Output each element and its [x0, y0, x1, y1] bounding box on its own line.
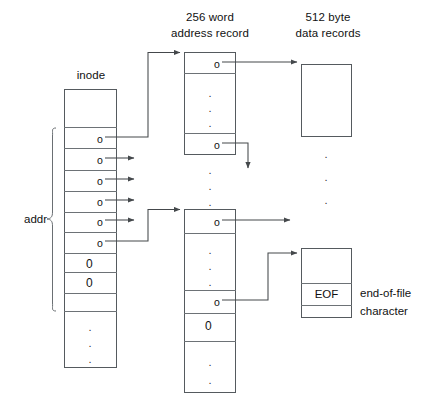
address-record-1-pointer: o — [214, 59, 220, 70]
inode-cell-pointer: o — [97, 238, 103, 249]
inode-ellipsis-dot: . — [84, 338, 96, 349]
address-record-1-divider — [184, 133, 236, 134]
data-record-eof-divider — [301, 305, 352, 306]
heading-inode: inode — [64, 68, 118, 84]
inode-divider — [64, 212, 117, 213]
inode-cell-pointer: o — [97, 134, 103, 145]
heading-data-records-line2: data records — [272, 26, 384, 42]
inode-cell-pointer: o — [97, 155, 103, 166]
inode-cell-null: 0 — [86, 277, 93, 289]
data-record-eof-divider — [301, 283, 352, 284]
inode-cell-pointer: o — [97, 197, 103, 208]
diagram-canvas: inode 256 word address record 512 byte d… — [0, 0, 430, 408]
address-record-1-ellipsis-dot: . — [204, 88, 216, 99]
address-record-2-divider — [184, 341, 236, 342]
data-record-gap-dot: . — [320, 172, 332, 183]
address-record-2-ellipsis-dot: . — [204, 277, 216, 288]
address-record-gap-dot: . — [204, 165, 216, 176]
inode-divider — [64, 191, 117, 192]
inode-divider — [64, 311, 117, 312]
address-record-2-divider — [184, 233, 236, 234]
addr-brace-label: addr — [24, 213, 47, 225]
data-record-gap-dot: . — [320, 149, 332, 160]
inode-cell-pointer: o — [97, 176, 103, 187]
data-record-gap-dot: . — [320, 195, 332, 206]
inode-divider — [64, 232, 117, 233]
inode-divider — [64, 127, 117, 128]
eof-note-line2: character — [360, 306, 408, 318]
address-record-2-divider — [184, 313, 236, 314]
inode-divider — [64, 253, 117, 254]
address-record-gap-dot: . — [204, 197, 216, 208]
address-record-1-ellipsis-dot: . — [204, 103, 216, 114]
address-record-gap-dot: . — [204, 181, 216, 192]
inode-divider — [64, 148, 117, 149]
address-record-2-ellipsis-dot: . — [204, 245, 216, 256]
inode-divider — [64, 272, 117, 273]
addr-brace — [47, 128, 56, 311]
inode-cell-pointer: o — [97, 217, 103, 228]
address-record-2-divider — [184, 290, 236, 291]
address-record-2-ellipsis-dot: . — [204, 261, 216, 272]
address-record-2-pointer: o — [214, 217, 220, 228]
inode-ellipsis-dot: . — [84, 354, 96, 365]
address-record-2-pointer: o — [214, 297, 220, 308]
address-record-2-ellipsis-dot: . — [204, 357, 216, 368]
address-record-2-null: 0 — [205, 320, 212, 332]
address-record-1-divider — [184, 73, 236, 74]
inode-ellipsis-dot: . — [84, 322, 96, 333]
address-record-1-ellipsis-dot: . — [204, 118, 216, 129]
address-record-2-ellipsis-dot: . — [204, 375, 216, 386]
inode-divider — [64, 170, 117, 171]
eof-note-line1: end-of-file — [360, 288, 411, 300]
heading-address-record-line1: 256 word — [160, 10, 260, 26]
eof-cell-label: EOF — [301, 289, 352, 301]
inode-divider — [64, 293, 117, 294]
heading-address-record-line2: address record — [150, 26, 270, 42]
heading-data-records-line1: 512 byte — [278, 10, 378, 26]
data-record-1-box — [301, 64, 352, 137]
address-record-1-pointer: o — [214, 140, 220, 151]
inode-cell-null: 0 — [86, 258, 93, 270]
